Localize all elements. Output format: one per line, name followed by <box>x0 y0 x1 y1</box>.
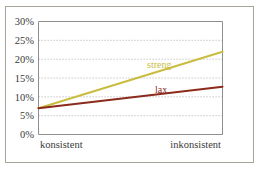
ytick-label-5: 5% <box>20 110 34 121</box>
xtick-label-konsistent: konsistent <box>40 139 83 150</box>
ytick-label-0: 0% <box>20 129 34 140</box>
series-label-lax: lax <box>155 84 167 95</box>
ytick-label-20: 20% <box>15 54 35 65</box>
chart-figure: 0% 5% 10% 15% 20% 25% 30% konsistent ink… <box>0 0 262 170</box>
plot-wrapper: 0% 5% 10% 15% 20% 25% 30% konsistent ink… <box>0 0 262 170</box>
ytick-label-10: 10% <box>15 92 35 103</box>
line-chart: 0% 5% 10% 15% 20% 25% 30% konsistent ink… <box>0 0 262 170</box>
ytick-label-30: 30% <box>15 16 35 27</box>
ytick-label-25: 25% <box>15 35 35 46</box>
ytick-label-15: 15% <box>15 73 35 84</box>
xtick-label-inkonsistent: inkonsistent <box>170 139 221 150</box>
series-label-streng: streng <box>147 59 171 70</box>
